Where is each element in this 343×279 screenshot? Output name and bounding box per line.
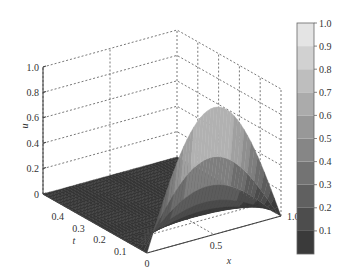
colorbar-band <box>297 46 314 69</box>
colorbar-band <box>297 231 314 254</box>
colorbar-tick-label: 0.6 <box>319 110 332 121</box>
colorbar-band <box>297 139 314 162</box>
x-tick-label: 0.5 <box>210 240 223 251</box>
colorbar-band <box>297 185 314 208</box>
z-gridline <box>43 81 281 140</box>
t-tick-label: 0.3 <box>72 223 85 234</box>
z-axis-label: u <box>19 124 30 129</box>
colorbar-tick-label: 0.1 <box>319 225 332 236</box>
colorbar-tick-label: 0.7 <box>319 87 332 98</box>
x-axis-label: x <box>226 255 232 266</box>
surface-chart: 00.20.40.60.81.00.10.20.30.400.51.0 0.10… <box>0 0 343 279</box>
z-tick-label: 0.6 <box>27 112 40 123</box>
colorbar-tick-label: 0.3 <box>319 179 332 190</box>
colorbar-tick-label: 0.4 <box>319 156 332 167</box>
colorbar-tick-label: 0.8 <box>319 64 332 75</box>
z-tick-label: 0.8 <box>27 87 40 98</box>
x-tick-label: 0 <box>145 258 150 269</box>
colorbar-band <box>297 162 314 185</box>
colorbar-band <box>297 69 314 92</box>
z-gridline <box>43 30 281 89</box>
z-tick-label: 1.0 <box>27 62 40 73</box>
z-tick-mark <box>43 66 46 67</box>
colorbar: 0.10.20.30.40.50.60.70.80.91.0 <box>297 18 332 255</box>
colorbar-band <box>297 208 314 231</box>
colorbar-tick-label: 0.5 <box>319 133 332 144</box>
z-tick-label: 0 <box>34 189 39 200</box>
t-tick-label: 0.1 <box>114 246 127 257</box>
colorbar-band <box>297 23 314 46</box>
t-tick-label: 0.2 <box>93 234 106 245</box>
colorbar-band <box>297 92 314 115</box>
colorbar-band <box>297 115 314 138</box>
z-tick-label: 0.4 <box>27 138 40 149</box>
colorbar-tick-label: 1.0 <box>319 18 332 29</box>
z-gridline <box>43 55 281 114</box>
z-tick-label: 0.2 <box>27 163 40 174</box>
t-axis-label: t <box>73 235 76 246</box>
colorbar-tick-label: 0.2 <box>319 202 332 213</box>
t-tick-label: 0.4 <box>52 211 65 222</box>
colorbar-tick-label: 0.9 <box>319 41 332 52</box>
